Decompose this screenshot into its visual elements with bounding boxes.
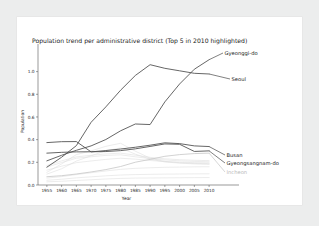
y-tick-label: 0.2 xyxy=(28,160,35,165)
series-line-gyeonggi-do xyxy=(47,60,209,161)
x-tick-label: 1970 xyxy=(86,188,97,193)
line-chart: Population trend per administrative dist… xyxy=(17,17,302,205)
x-tick-label: 1965 xyxy=(71,188,82,193)
y-tick-label: 1.0 xyxy=(28,69,35,74)
series-label-incheon: Incheon xyxy=(227,169,248,175)
series-label-seoul: Seoul xyxy=(232,76,246,82)
x-tick-label: 1955 xyxy=(41,188,52,193)
series-leader-line xyxy=(209,151,225,163)
series-leader-line xyxy=(209,53,223,60)
x-tick-label: 2010 xyxy=(204,188,215,193)
series-leader-line xyxy=(209,74,230,79)
x-tick-label: 1995 xyxy=(159,188,170,193)
series-line-background xyxy=(47,167,209,178)
series-label-busan: Busan xyxy=(227,152,243,158)
x-axis-label: Year xyxy=(121,196,131,201)
series-leader-line xyxy=(209,147,225,155)
x-tick-label: 2005 xyxy=(189,188,200,193)
y-tick-label: 0.8 xyxy=(28,92,35,97)
x-tick-label: 1975 xyxy=(100,188,111,193)
y-tick-label: 0.6 xyxy=(28,115,35,120)
y-axis-label: Population xyxy=(20,110,25,133)
screenshot-root: Population trend per administrative dist… xyxy=(0,0,319,226)
series-label-gyeongsangnam-do: Gyeongsangnam-do xyxy=(227,160,279,167)
x-tick-label: 1985 xyxy=(130,188,141,193)
series-label-gyeonggi-do: Gyeonggi-do xyxy=(225,50,258,57)
x-tick-label: 1980 xyxy=(115,188,126,193)
series-line-incheon xyxy=(47,153,209,177)
x-tick-label: 1990 xyxy=(145,188,156,193)
x-tick-label: 1960 xyxy=(56,188,67,193)
series-line-background xyxy=(47,143,209,172)
chart-title: Population trend per administrative dist… xyxy=(32,37,247,45)
x-tick-label: 2000 xyxy=(174,188,185,193)
figure-card: Population trend per administrative dist… xyxy=(17,17,302,205)
y-tick-label: 0.0 xyxy=(28,183,35,188)
series-line-background xyxy=(47,155,209,167)
y-tick-label: 0.4 xyxy=(28,137,35,142)
series-leader-line xyxy=(209,153,225,172)
